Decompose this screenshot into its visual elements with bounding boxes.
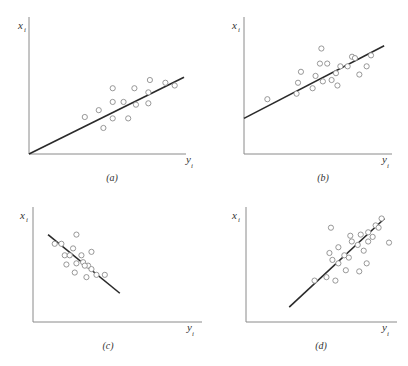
- panel-d: xiyi(d): [231, 207, 397, 352]
- data-point: [132, 86, 137, 91]
- data-point: [320, 79, 325, 84]
- data-point: [325, 61, 330, 66]
- panel-a: xiyi(a): [17, 17, 193, 184]
- data-point: [146, 90, 151, 95]
- data-point: [338, 64, 343, 69]
- data-point: [82, 263, 87, 268]
- panel-caption: (a): [106, 172, 118, 184]
- data-point: [82, 114, 87, 119]
- data-point: [79, 253, 84, 258]
- data-point: [67, 253, 72, 258]
- data-point: [355, 242, 360, 247]
- data-point: [72, 270, 77, 275]
- data-point: [336, 261, 341, 266]
- data-point: [295, 80, 300, 85]
- data-point: [94, 272, 99, 277]
- data-point: [298, 69, 303, 74]
- data-point: [102, 272, 107, 277]
- data-point: [345, 64, 350, 69]
- data-point: [317, 61, 322, 66]
- data-point: [327, 250, 332, 255]
- y-axis-label: x: [19, 209, 25, 221]
- data-point: [74, 232, 79, 237]
- data-point: [89, 267, 94, 272]
- data-point: [379, 216, 384, 221]
- data-point: [330, 257, 335, 262]
- y-axis-label: x: [231, 19, 237, 31]
- data-point: [64, 262, 69, 267]
- data-point: [59, 241, 64, 246]
- data-point: [357, 269, 362, 274]
- panel-b: xiyi(b): [231, 17, 392, 184]
- data-point: [364, 261, 369, 266]
- data-point: [333, 71, 338, 76]
- data-point: [126, 116, 131, 121]
- data-point: [352, 56, 357, 61]
- data-point: [70, 246, 75, 251]
- data-point: [110, 86, 115, 91]
- data-point: [348, 233, 353, 238]
- data-point: [121, 99, 126, 104]
- data-point: [110, 116, 115, 121]
- data-point: [366, 239, 371, 244]
- data-point: [294, 91, 299, 96]
- data-point: [361, 248, 366, 253]
- x-axis-label-subscript: i: [387, 162, 389, 170]
- data-point: [349, 239, 354, 244]
- data-point: [368, 53, 373, 58]
- data-point: [265, 97, 270, 102]
- data-point: [89, 249, 94, 254]
- y-axis-label-subscript: i: [26, 216, 28, 224]
- data-point: [310, 86, 315, 91]
- data-point: [319, 46, 324, 51]
- regression-line: [29, 77, 184, 154]
- data-point: [172, 83, 177, 88]
- data-point: [343, 268, 348, 273]
- data-point: [376, 225, 381, 230]
- y-axis-label-subscript: i: [238, 26, 240, 34]
- data-point: [386, 240, 391, 245]
- x-axis-label-subscript: i: [191, 162, 193, 170]
- data-point: [346, 255, 351, 260]
- data-point: [62, 253, 67, 258]
- data-point: [313, 73, 318, 78]
- data-point: [133, 102, 138, 107]
- y-axis-label: x: [231, 209, 237, 221]
- data-point: [110, 99, 115, 104]
- data-point: [357, 72, 362, 77]
- panel-caption: (d): [315, 340, 327, 352]
- data-point: [84, 275, 89, 280]
- data-point: [335, 83, 340, 88]
- y-axis-label-subscript: i: [24, 26, 26, 34]
- x-axis-label-subscript: i: [387, 330, 389, 338]
- panel-caption: (b): [317, 172, 329, 184]
- data-point: [147, 77, 152, 82]
- data-point: [74, 261, 79, 266]
- scatter-figure: xiyi(a) xiyi(b) xiyi(c) xiyi(d): [0, 0, 408, 366]
- y-axis-label-subscript: i: [238, 216, 240, 224]
- data-point: [146, 101, 151, 106]
- data-point: [336, 245, 341, 250]
- x-axis-label-subscript: i: [192, 330, 194, 338]
- data-point: [163, 80, 168, 85]
- data-point: [329, 77, 334, 82]
- panel-caption: (c): [102, 340, 114, 352]
- data-point: [358, 232, 363, 237]
- data-point: [364, 64, 369, 69]
- data-point: [101, 125, 106, 130]
- data-point: [333, 278, 338, 283]
- data-point: [366, 230, 371, 235]
- data-point: [324, 275, 329, 280]
- panel-c: xiyi(c): [19, 207, 202, 352]
- data-point: [370, 234, 375, 239]
- y-axis-label: x: [17, 19, 23, 31]
- data-point: [328, 225, 333, 230]
- regression-line: [244, 46, 384, 119]
- data-point: [52, 241, 57, 246]
- data-point: [312, 278, 317, 283]
- data-point: [96, 108, 101, 113]
